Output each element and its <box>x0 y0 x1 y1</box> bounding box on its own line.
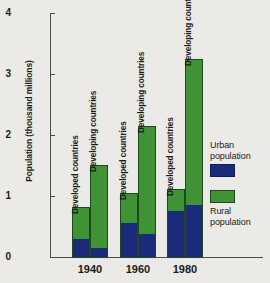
legend-label-rural-line2: population <box>210 217 268 228</box>
bar-1960-developing[interactable] <box>138 126 156 258</box>
x-axis-label-1960: 1960 <box>117 263 159 275</box>
bar-segment-urban <box>91 248 107 257</box>
bar-1960-developed[interactable] <box>120 193 138 258</box>
legend-swatch-urban <box>210 164 235 177</box>
x-axis-label-1940: 1940 <box>69 263 111 275</box>
legend-label-rural-line1: Rural <box>210 206 268 217</box>
legend: Urban population Rural population <box>210 140 268 227</box>
x-axis-label-1980: 1980 <box>164 263 206 275</box>
y-tick-4 <box>51 13 55 14</box>
legend-label-urban-line2: population <box>210 151 268 162</box>
bar-1940-developing[interactable] <box>90 165 108 258</box>
y-tick-label-0: 0 <box>0 252 11 262</box>
bar-1980-developed[interactable] <box>167 189 185 258</box>
bar-segment-rural <box>91 166 107 257</box>
y-tick-label-2: 2 <box>0 130 11 140</box>
bar-segment-urban <box>168 211 184 257</box>
bar-segment-urban <box>186 205 202 257</box>
legend-swatch-rural <box>210 190 235 203</box>
bar-1980-developing[interactable] <box>185 59 203 258</box>
y-tick-2 <box>51 135 55 136</box>
y-tick-label-3: 3 <box>0 69 11 79</box>
bar-segment-urban <box>121 223 137 257</box>
bar-label-1960-developing: Developing countries <box>137 52 146 133</box>
bar-label-1960-developed: Developed countries <box>119 121 128 200</box>
bar-1940-developed[interactable] <box>72 207 90 258</box>
y-axis-title: Population (thousand millions) <box>24 41 34 201</box>
legend-label-urban-line1: Urban <box>210 140 268 151</box>
y-tick-label-4: 4 <box>0 8 11 18</box>
bar-segment-urban <box>139 234 155 257</box>
bar-label-1980-developing: Developing countries <box>184 0 193 66</box>
bar-segment-urban <box>73 239 89 257</box>
y-tick-3 <box>51 74 55 75</box>
y-tick-1 <box>51 196 55 197</box>
population-bar-chart: Population (thousand millions) 4 3 2 1 0… <box>0 0 270 283</box>
bar-label-1940-developed: Developed countries <box>71 135 80 214</box>
bar-label-1980-developed: Developed countries <box>166 117 175 196</box>
y-tick-0 <box>51 257 55 258</box>
bar-label-1940-developing: Developing countries <box>89 91 98 172</box>
y-tick-label-1: 1 <box>0 191 11 201</box>
